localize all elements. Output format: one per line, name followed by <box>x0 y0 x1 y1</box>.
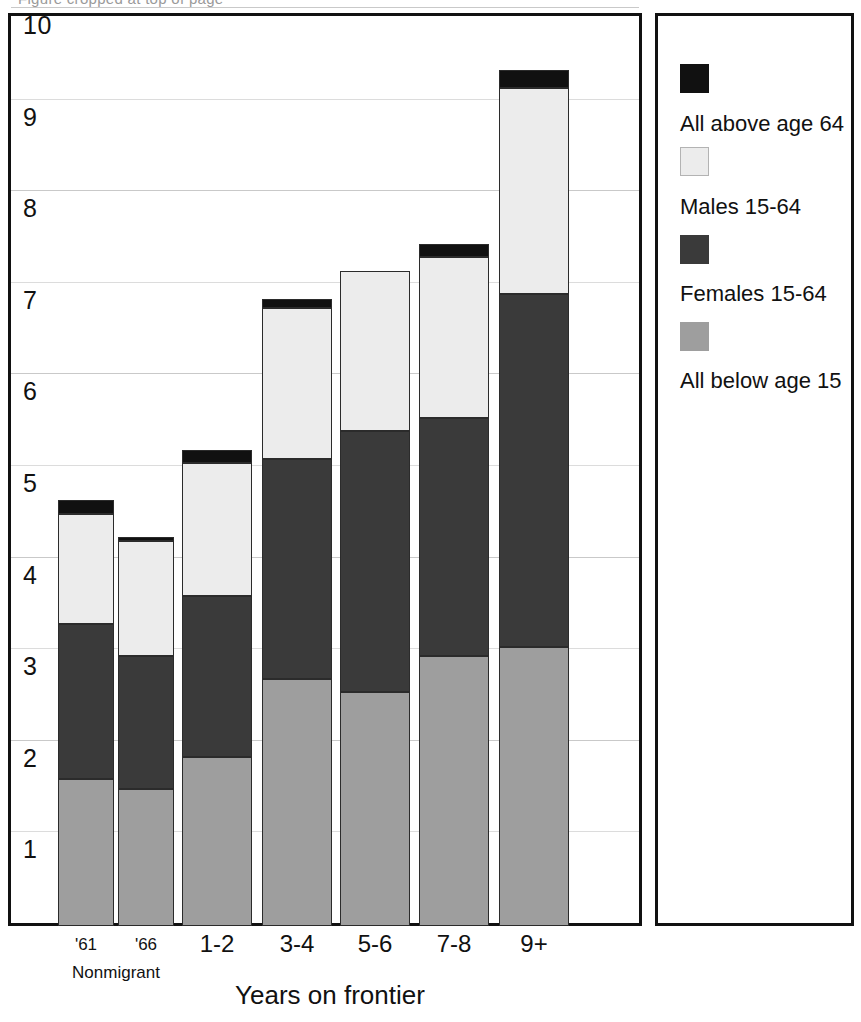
bar-series-container <box>11 16 639 923</box>
bar-segment-males[interactable] <box>182 463 252 596</box>
bar-segment-females[interactable] <box>182 596 252 756</box>
legend-label-females: Females 15-64 <box>680 281 827 307</box>
bar-segment-males[interactable] <box>262 308 332 459</box>
bar-segment-above64[interactable] <box>499 70 569 88</box>
bar-66[interactable] <box>118 537 174 926</box>
bar-segment-females[interactable] <box>340 431 410 692</box>
chart-legend: All above age 64Males 15-64Females 15-64… <box>655 13 854 926</box>
legend-swatch-males <box>680 147 709 176</box>
chart-plot-area: 12345678910 <box>8 13 642 926</box>
x-tick-1-2: 1-2 <box>182 930 252 958</box>
x-tick-3-4: 3-4 <box>262 930 332 958</box>
cropped-title-remnant: Figure cropped at top of page <box>0 0 861 11</box>
legend-label-males: Males 15-64 <box>680 194 801 220</box>
bar-segment-males[interactable] <box>340 271 410 431</box>
bar-segment-females[interactable] <box>118 656 174 789</box>
x-tick-66: '66 <box>118 935 174 955</box>
bar-9+[interactable] <box>499 70 569 926</box>
bar-segment-below15[interactable] <box>340 692 410 926</box>
x-tick-61: '61 <box>58 935 114 955</box>
bar-segment-below15[interactable] <box>58 779 114 926</box>
bar-segment-below15[interactable] <box>182 757 252 926</box>
x-tick-7-8: 7-8 <box>419 930 489 958</box>
bar-segment-males[interactable] <box>499 88 569 294</box>
bar-segment-below15[interactable] <box>262 679 332 926</box>
bar-7-8[interactable] <box>419 244 489 926</box>
bar-segment-females[interactable] <box>58 624 114 780</box>
bar-segment-above64[interactable] <box>118 537 174 542</box>
bar-segment-females[interactable] <box>262 459 332 679</box>
x-tick-5-6: 5-6 <box>340 930 410 958</box>
x-axis-title: Years on frontier <box>0 980 660 1011</box>
legend-swatch-above64 <box>680 64 709 93</box>
bar-3-4[interactable] <box>262 299 332 926</box>
bar-segment-above64[interactable] <box>419 244 489 258</box>
x-tick-9+: 9+ <box>499 930 569 958</box>
legend-label-below15: All below age 15 <box>680 368 841 394</box>
bar-segment-above64[interactable] <box>182 450 252 464</box>
bar-segment-below15[interactable] <box>419 656 489 926</box>
legend-swatch-females <box>680 235 709 264</box>
legend-swatch-below15 <box>680 322 709 351</box>
bar-segment-males[interactable] <box>58 514 114 624</box>
bar-segment-above64[interactable] <box>58 500 114 514</box>
bar-segment-males[interactable] <box>419 257 489 417</box>
bar-61[interactable] <box>58 500 114 926</box>
bar-segment-males[interactable] <box>118 541 174 656</box>
bar-segment-females[interactable] <box>499 294 569 647</box>
gridline-10 <box>11 7 639 8</box>
bar-segment-females[interactable] <box>419 418 489 656</box>
bar-segment-below15[interactable] <box>118 789 174 926</box>
bar-segment-above64[interactable] <box>262 299 332 308</box>
bar-segment-below15[interactable] <box>499 647 569 926</box>
legend-label-above64: All above age 64 <box>680 111 844 137</box>
bar-5-6[interactable] <box>340 271 410 926</box>
bar-1-2[interactable] <box>182 450 252 926</box>
